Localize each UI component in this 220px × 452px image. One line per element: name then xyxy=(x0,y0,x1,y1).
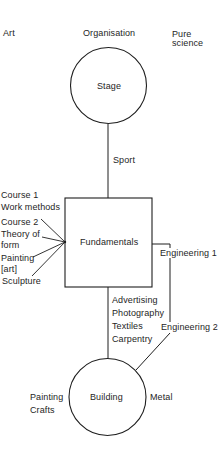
node-stage-label: Stage xyxy=(97,81,121,91)
label-painting-building: Painting xyxy=(30,392,63,402)
input-course1: Course 1 xyxy=(1,190,38,200)
label-organisation: Organisation xyxy=(83,28,135,38)
input-sculpture: Sculpture xyxy=(2,276,41,286)
edge-label-carpentry: Carpentry xyxy=(112,334,152,344)
course1-connector xyxy=(41,219,65,242)
label-metal: Metal xyxy=(150,392,173,402)
edge-label-photography: Photography xyxy=(112,308,164,318)
input-theory-of: Theory of xyxy=(1,229,40,239)
input-work-methods: Work methods xyxy=(1,202,60,212)
node-building-label: Building xyxy=(90,392,123,402)
input-painting: Painting xyxy=(1,253,34,263)
fan-in-junction xyxy=(64,241,66,243)
edge-label-engineering-2: Engineering 2 xyxy=(161,322,218,332)
label-science: science xyxy=(172,38,203,48)
label-art: Art xyxy=(3,28,15,38)
node-fundamentals-label: Fundamentals xyxy=(80,237,138,247)
edge-label-textiles: Textiles xyxy=(112,321,143,331)
painting-art-connector xyxy=(33,242,65,257)
input-course2: Course 2 xyxy=(1,217,38,227)
edge-label-sport: Sport xyxy=(113,155,135,165)
label-crafts: Crafts xyxy=(30,405,55,415)
edge-label-engineering-1: Engineering 1 xyxy=(160,248,217,258)
edge-label-advertising: Advertising xyxy=(112,295,158,305)
course2-connector xyxy=(42,237,65,242)
sculpture-connector xyxy=(32,242,65,276)
input-form: form xyxy=(1,240,19,250)
input-art: [art] xyxy=(1,264,17,274)
